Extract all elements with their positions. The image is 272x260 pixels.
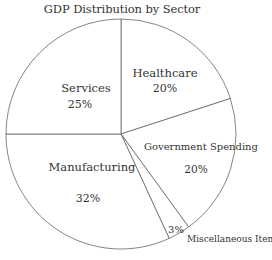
label-manufacturing: Manufacturing	[49, 160, 137, 174]
label-manufacturing-pct: 32%	[76, 192, 100, 205]
label-services-pct: 25%	[68, 98, 92, 111]
label-healthcare: Healthcare	[133, 66, 198, 80]
slice-services	[6, 19, 121, 134]
label-services: Services	[61, 81, 111, 95]
label-miscellaneous-items: Miscellaneous Items	[187, 234, 272, 244]
label-government-spending-pct: 20%	[184, 163, 207, 175]
pie-plot: Healthcare 20% Government Spending 20% S…	[0, 0, 272, 260]
label-miscellaneous-items-pct: 3%	[168, 224, 184, 235]
label-healthcare-pct: 20%	[153, 82, 177, 95]
pie-chart: GDP Distribution by Sector Healthcare 20…	[0, 0, 272, 260]
label-government-spending: Government Spending	[144, 141, 258, 152]
